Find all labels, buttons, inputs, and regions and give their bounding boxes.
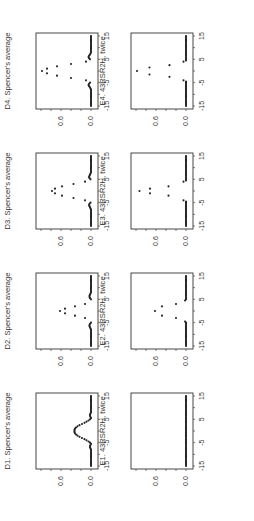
- x-tick-label: -15: [198, 101, 205, 111]
- data-point: [138, 190, 140, 192]
- panel-title: E2. 43RSR2H, twice: [98, 276, 107, 345]
- panel-e3: E3. 43RSR2H, twice-15-55150.00.6: [98, 152, 205, 246]
- data-point: [175, 317, 177, 319]
- panel-title: E3. 43RSR2H, twice: [98, 156, 107, 225]
- data-point: [168, 64, 170, 66]
- y-tick-label: 0.6: [152, 116, 159, 126]
- data-point: [90, 35, 92, 37]
- data-point: [87, 440, 89, 442]
- data-point: [149, 192, 151, 194]
- data-point: [148, 66, 150, 68]
- x-tick-label: 5: [198, 57, 205, 61]
- data-point: [185, 395, 187, 397]
- x-tick-label: 5: [198, 297, 205, 301]
- data-point: [83, 438, 85, 440]
- x-tick-label: -15: [198, 221, 205, 231]
- data-point: [72, 197, 74, 199]
- data-point: [61, 195, 63, 197]
- data-point: [85, 439, 87, 441]
- data-point: [74, 305, 76, 307]
- data-point: [81, 437, 83, 439]
- data-point: [182, 181, 184, 183]
- y-tick-label: 0.6: [57, 356, 64, 366]
- x-tick-label: -15: [198, 341, 205, 351]
- y-tick-label: 0.0: [87, 236, 94, 246]
- data-point: [154, 310, 156, 312]
- data-point: [78, 436, 80, 438]
- x-tick-label: 5: [198, 417, 205, 421]
- data-point: [90, 322, 92, 324]
- panel-title: E4. 43RSR2H, twice: [98, 36, 107, 105]
- data-point: [90, 395, 92, 397]
- panel-title: D3. Spencer's average: [3, 152, 12, 229]
- data-point: [84, 181, 86, 183]
- plot-frame: [131, 273, 193, 349]
- data-point: [85, 79, 87, 81]
- plot-frame: [36, 33, 98, 109]
- data-point: [168, 76, 170, 78]
- data-point: [182, 199, 184, 201]
- x-tick-label: 15: [198, 32, 205, 40]
- data-point: [161, 305, 163, 307]
- data-point: [182, 79, 184, 81]
- plot-frame: [36, 393, 98, 469]
- data-point: [149, 188, 151, 190]
- y-tick-label: 0.0: [182, 236, 189, 246]
- data-point: [84, 199, 86, 201]
- panel-e4: E4. 43RSR2H, twice-15-55150.00.6: [98, 32, 205, 126]
- data-point: [74, 315, 76, 317]
- data-point: [83, 422, 85, 424]
- data-point: [70, 63, 72, 65]
- data-point: [81, 423, 83, 425]
- data-point: [54, 188, 56, 190]
- x-tick-label: -5: [198, 199, 205, 205]
- data-point: [136, 70, 138, 72]
- data-point: [90, 275, 92, 277]
- data-point: [167, 185, 169, 187]
- y-tick-label: 0.6: [152, 476, 159, 486]
- y-tick-label: 0.0: [87, 116, 94, 126]
- y-tick-label: 0.6: [57, 476, 64, 486]
- data-point: [85, 61, 87, 63]
- data-point: [185, 80, 187, 82]
- data-point: [90, 155, 92, 157]
- x-tick-label: 15: [198, 152, 205, 160]
- data-point: [76, 425, 78, 427]
- plot-frame: [131, 393, 193, 469]
- data-point: [161, 315, 163, 317]
- data-point: [89, 202, 91, 204]
- data-point: [185, 200, 187, 202]
- x-tick-label: 15: [198, 272, 205, 280]
- y-tick-label: 0.6: [152, 236, 159, 246]
- figure: D1. Spencer's average-15-55150.00.6D2. S…: [0, 0, 254, 521]
- y-tick-label: 0.0: [87, 476, 94, 486]
- plot-frame: [36, 153, 98, 229]
- y-tick-label: 0.0: [182, 476, 189, 486]
- x-tick-label: 5: [198, 177, 205, 181]
- data-point: [46, 68, 48, 70]
- data-point: [70, 77, 72, 79]
- panel-title: E1. 43RSR2H, twice: [98, 396, 107, 465]
- y-tick-label: 0.6: [152, 356, 159, 366]
- plot-frame: [131, 33, 193, 109]
- data-point: [185, 35, 187, 37]
- panel-d2: D2. Spencer's average-15-55150.00.6: [3, 272, 110, 366]
- data-point: [89, 82, 91, 84]
- y-tick-label: 0.0: [87, 356, 94, 366]
- x-tick-label: -5: [198, 79, 205, 85]
- panel-title: D4. Spencer's average: [3, 32, 12, 109]
- panel-d1: D1. Spencer's average-15-55150.00.6: [3, 392, 110, 486]
- data-point: [167, 195, 169, 197]
- data-point: [56, 65, 58, 67]
- data-point: [54, 192, 56, 194]
- data-point: [64, 312, 66, 314]
- data-point: [56, 75, 58, 77]
- data-point: [85, 421, 87, 423]
- data-point: [41, 70, 43, 72]
- panel-e2: E2. 43RSR2H, twice-15-55150.00.6: [98, 272, 205, 366]
- data-point: [78, 424, 80, 426]
- data-point: [184, 320, 186, 322]
- y-tick-label: 0.0: [182, 116, 189, 126]
- data-point: [51, 190, 53, 192]
- data-point: [64, 308, 66, 310]
